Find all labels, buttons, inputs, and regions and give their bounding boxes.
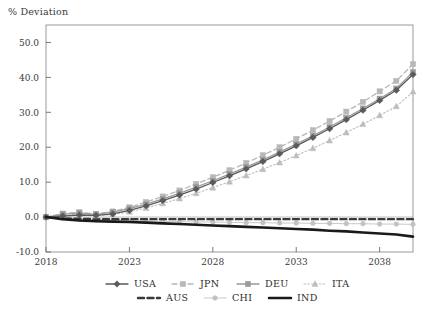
series-marker-jpn	[277, 145, 282, 150]
legend-label-aus: AUS	[165, 292, 188, 303]
series-marker-chi	[311, 221, 316, 226]
x-tick-label: 2018	[35, 257, 58, 267]
series-marker-chi	[361, 221, 366, 226]
series-line-ita	[46, 92, 413, 217]
series-marker-jpn	[327, 118, 332, 123]
legend-label-jpn: JPN	[199, 278, 219, 289]
series-marker-ita	[310, 145, 316, 151]
series-line-usa	[46, 75, 413, 217]
series-marker-ita	[327, 137, 333, 143]
series-marker-ita	[243, 172, 249, 178]
series-marker-ita	[410, 89, 416, 95]
series-marker-chi	[394, 222, 399, 227]
series-marker-ita	[343, 129, 349, 135]
series-marker-jpn	[394, 78, 399, 83]
x-tick-label: 2023	[118, 257, 141, 267]
series-jpn	[43, 62, 415, 220]
y-tick-label: 10.0	[19, 177, 39, 187]
x-tick-label: 2033	[285, 257, 308, 267]
legend-marker-chi	[213, 296, 218, 301]
chart-container: % Deviation 50.040.030.020.010.00.0-10.0…	[0, 0, 430, 314]
legend-item-ita[interactable]: ITA	[304, 278, 349, 289]
legend-item-deu[interactable]: DEU	[237, 278, 288, 289]
legend-item-jpn[interactable]: JPN	[172, 278, 219, 289]
series-line-jpn	[46, 64, 413, 217]
series-marker-ita	[377, 112, 383, 118]
chart-series	[43, 62, 416, 237]
legend-marker-deu	[245, 281, 250, 286]
x-tick-label: 2038	[368, 257, 391, 267]
series-line-deu	[46, 72, 413, 217]
chart-legend: USAJPNDEUITAAUSCHIIND	[106, 278, 349, 303]
legend-item-usa[interactable]: USA	[106, 278, 156, 289]
series-marker-jpn	[344, 109, 349, 114]
series-marker-ita	[260, 166, 266, 172]
series-marker-chi	[377, 222, 382, 227]
y-tick-label: 50.0	[19, 38, 39, 48]
y-tick-label: 0.0	[25, 212, 40, 222]
x-tick-label: 2028	[201, 257, 224, 267]
legend-label-deu: DEU	[265, 278, 288, 289]
series-usa	[43, 71, 416, 220]
series-marker-jpn	[294, 136, 299, 141]
line-chart-svg: 50.040.030.020.010.00.0-10.0201820232028…	[0, 0, 430, 314]
series-marker-chi	[277, 221, 282, 226]
legend-item-aus[interactable]: AUS	[138, 292, 188, 303]
legend-label-usa: USA	[134, 278, 156, 289]
series-marker-jpn	[360, 99, 365, 104]
y-tick-label: 30.0	[19, 108, 39, 118]
series-marker-jpn	[310, 128, 315, 133]
legend-label-ind: IND	[297, 292, 318, 303]
series-marker-chi	[260, 220, 265, 225]
series-marker-chi	[294, 221, 299, 226]
series-marker-chi	[411, 222, 416, 227]
series-marker-chi	[344, 221, 349, 226]
series-marker-ita	[360, 121, 366, 127]
series-marker-ita	[393, 103, 399, 109]
legend-item-chi[interactable]: CHI	[204, 292, 252, 303]
series-marker-jpn	[410, 62, 415, 67]
series-deu	[43, 70, 415, 220]
y-tick-label: 40.0	[19, 73, 39, 83]
series-ita	[43, 89, 416, 220]
series-marker-chi	[227, 220, 232, 225]
legend-label-ita: ITA	[332, 278, 349, 289]
legend-item-ind[interactable]: IND	[269, 292, 318, 303]
legend-marker-usa	[114, 281, 120, 287]
legend-marker-jpn	[180, 281, 185, 286]
series-marker-jpn	[377, 89, 382, 94]
series-marker-chi	[327, 221, 332, 226]
series-marker-chi	[244, 220, 249, 225]
y-tick-label: -10.0	[16, 247, 39, 257]
y-tick-label: 20.0	[19, 142, 39, 152]
legend-label-chi: CHI	[232, 292, 252, 303]
